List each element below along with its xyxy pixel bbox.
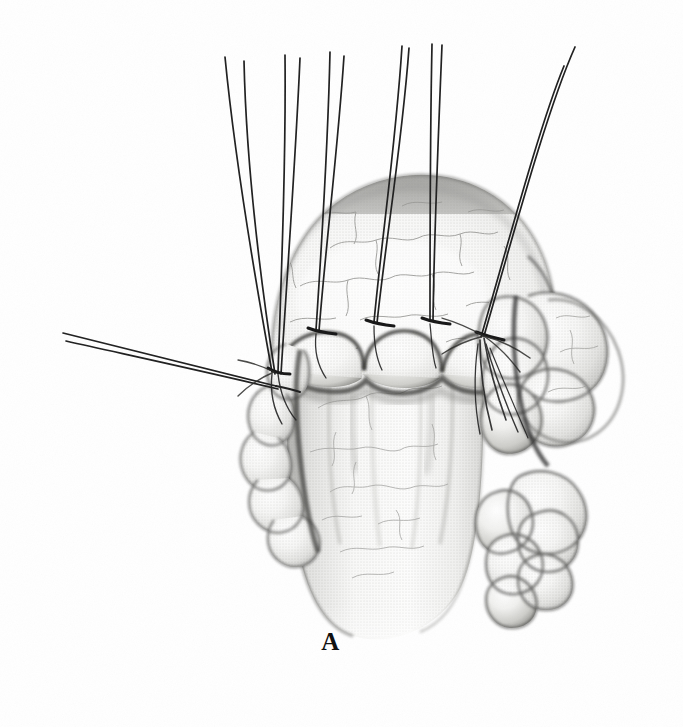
figure-root: A xyxy=(0,0,683,727)
panel-label-text: A xyxy=(321,628,340,656)
panel-label: A xyxy=(0,628,683,656)
surgical-illustration xyxy=(0,0,683,727)
